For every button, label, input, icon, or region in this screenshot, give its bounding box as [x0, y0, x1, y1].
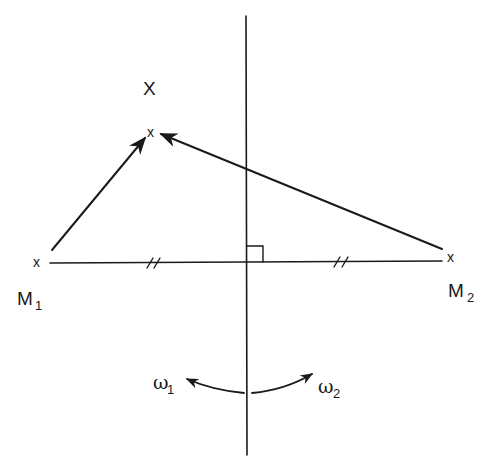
arrow-m1-to-point: [52, 138, 145, 250]
label-omega1-subscript: 1: [167, 382, 174, 397]
label-M2: M: [448, 280, 464, 301]
m2-x-marker: x: [447, 249, 454, 265]
rotation-arrow-omega2: [252, 374, 312, 393]
right-angle-marker: [247, 246, 263, 262]
label-omega2-subscript: 2: [333, 386, 340, 401]
label-M1-subscript: 1: [35, 298, 42, 313]
label-X: X: [143, 78, 156, 99]
mirror-symmetry-diagram: x x x X M 1 M 2 ω 1 ω 2: [0, 0, 499, 468]
arrow-m2-to-point: [161, 134, 442, 249]
base-segment-line: [50, 261, 442, 263]
m1-x-marker: x: [33, 254, 40, 270]
label-omega2: ω: [318, 375, 334, 397]
mirror-axis-line: [246, 16, 247, 455]
label-M2-subscript: 2: [467, 290, 474, 305]
label-M1: M: [17, 288, 33, 309]
point-x-marker: x: [147, 124, 154, 140]
rotation-arrow-omega1: [187, 379, 244, 393]
